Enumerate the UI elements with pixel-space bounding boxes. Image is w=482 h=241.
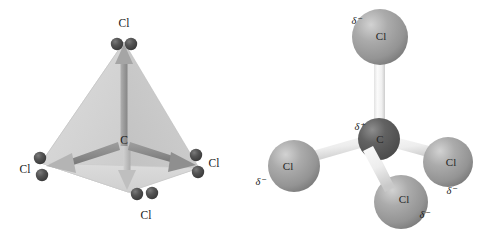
atom-cl-left: Cl <box>268 140 320 192</box>
label-c-center: C <box>120 134 128 146</box>
atom-label-cl-right: Cl <box>446 156 456 168</box>
charge-label-cl-top: δ⁻ <box>352 15 364 26</box>
label-cl-top: Cl <box>119 17 130 29</box>
ball-and-stick-panel: Cl Cl Cl Cl C δ⁻ δ⁻ δ <box>241 0 482 241</box>
chlorine-atoms-bottom <box>131 187 158 200</box>
charge-label-cl-bottom: δ⁻ <box>420 209 432 220</box>
atom-label-cl-top: Cl <box>376 30 386 42</box>
atom-label-cl-left: Cl <box>283 160 293 172</box>
label-cl-left: Cl <box>20 163 31 175</box>
label-cl-right: Cl <box>209 157 220 169</box>
atom-cl-right: Cl <box>423 137 473 187</box>
charge-label-c: δ⁺ <box>355 121 367 132</box>
tetrahedron-panel: Cl Cl Cl Cl C <box>0 0 241 241</box>
charge-label-cl-right: δ⁻ <box>447 185 459 196</box>
chemistry-figure: Cl Cl Cl Cl C <box>0 0 482 241</box>
charge-label-cl-left: δ⁻ <box>256 176 268 187</box>
atom-label-cl-bottom: Cl <box>399 193 409 205</box>
label-cl-bottom: Cl <box>141 209 152 221</box>
atom-label-c: C <box>376 133 383 145</box>
